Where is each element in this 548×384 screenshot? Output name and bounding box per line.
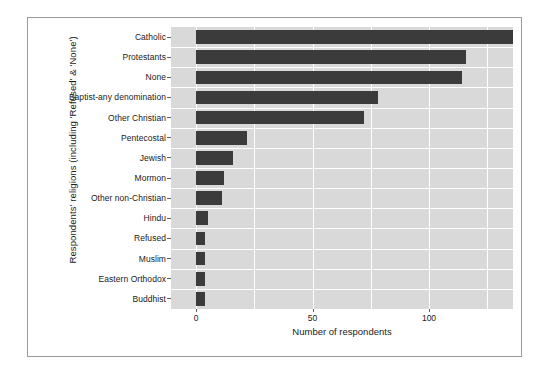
y-axis-tick-label: Eastern Orthodox [99,274,166,284]
x-axis-tick-mark [196,309,197,312]
bar [196,131,247,145]
bar [196,211,208,225]
y-axis-tick: Eastern Orthodox [36,269,166,289]
bar-row [171,87,513,107]
bar-row [171,108,513,128]
bar-row [171,289,513,309]
bar-row [171,228,513,248]
y-axis-tick: Jewish [36,148,166,168]
y-axis-tick-label: Pentecostal [121,133,166,143]
y-axis-tick: Buddhist [36,289,166,309]
bar [196,111,364,125]
y-axis-tick-label: Protestants [122,52,166,62]
bar-row [171,208,513,228]
bar [196,71,462,85]
bar [196,171,224,185]
y-axis-tick-label: Hindu [144,213,166,223]
y-axis-tick-label: Other Christian [108,113,166,123]
y-axis-tick: Protestants [36,47,166,67]
plot-panel [171,27,513,309]
bar-row [171,148,513,168]
bar [196,292,205,306]
bar [196,252,205,266]
y-axis-tick: Muslim [36,249,166,269]
y-axis-tick: Other Christian [36,108,166,128]
bar [196,30,513,44]
y-axis-tick-label: Buddhist [133,294,166,304]
x-axis-title: Number of respondents [171,326,513,337]
y-axis-tick-label: Catholic [135,32,166,42]
y-axis-tick-label: Other non-Christian [91,193,166,203]
chart-figure-frame: Respondents' religions (including 'Refus… [27,17,522,357]
y-axis-tick: Mormon [36,168,166,188]
y-axis-tick-label: None [145,72,166,82]
x-axis-tick-label: 50 [308,313,317,323]
bar-row [171,188,513,208]
y-axis-tick-label: Muslim [139,254,166,264]
bar [196,151,233,165]
y-axis-tick-label: Baptist-any denomination [69,92,166,102]
y-axis-tick-label: Refused [134,233,166,243]
x-axis-tick-mark [313,309,314,312]
bar-row [171,269,513,289]
bar-row [171,67,513,87]
bar [196,272,205,286]
bar [196,91,378,105]
bars-layer [171,27,513,309]
bar [196,191,222,205]
y-axis-tick: Refused [36,228,166,248]
bar-row [171,27,513,47]
y-axis-tick: Pentecostal [36,128,166,148]
y-axis-tick: Other non-Christian [36,188,166,208]
y-axis-tick: Hindu [36,208,166,228]
x-axis-tick-mark [429,309,430,312]
bar-row [171,249,513,269]
x-axis-tick-row: 050100 [171,309,513,325]
y-axis-tick: Catholic [36,27,166,47]
y-axis-tick-label: Jewish [140,153,166,163]
bar-row [171,128,513,148]
x-axis-tick-label: 0 [194,313,199,323]
x-axis-tick-label: 100 [422,313,436,323]
bar [196,232,205,246]
bar [196,50,466,64]
bar-row [171,47,513,67]
y-axis-tick: None [36,67,166,87]
y-axis-tick-label-column: CatholicProtestantsNoneBaptist-any denom… [36,27,166,309]
y-axis-tick-label: Mormon [135,173,166,183]
y-axis-tick: Baptist-any denomination [36,87,166,107]
bar-row [171,168,513,188]
